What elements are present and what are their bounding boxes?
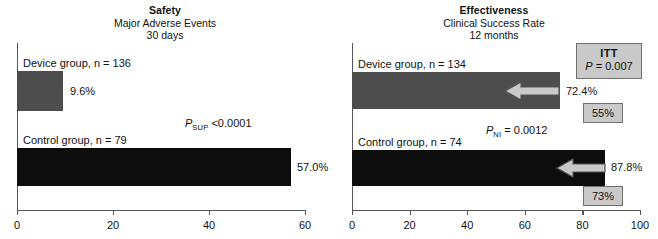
safety-subtitle-2: 30 days (0, 29, 330, 42)
panel-safety: Safety Major Adverse Events 30 days 0 20… (0, 0, 330, 239)
effectiveness-subtitle-2: 12 months (330, 29, 658, 42)
effectiveness-title: Effectiveness (330, 4, 658, 17)
safety-tick-0 (17, 210, 18, 215)
effectiveness-tick-0 (352, 210, 353, 215)
effectiveness-x-axis (352, 210, 641, 211)
device-threshold-label: 55% (592, 107, 614, 120)
safety-x-axis (17, 210, 306, 211)
effectiveness-control-value-label: 87.8% (611, 161, 642, 173)
clinical-trial-figure: Safety Major Adverse Events 30 days 0 20… (0, 0, 658, 239)
safety-control-bar (17, 148, 291, 186)
effectiveness-tick-label-20: 20 (390, 219, 430, 231)
safety-control-group-label: Control group, n = 79 (23, 134, 127, 146)
safety-tick-label-20: 20 (93, 219, 133, 231)
effectiveness-tick-label-100: 100 (620, 219, 658, 231)
safety-tick-label-60: 60 (285, 219, 325, 231)
effectiveness-tick-40 (467, 210, 468, 215)
arrow-device-threshold-icon (504, 80, 560, 102)
safety-title-block: Safety Major Adverse Events 30 days (0, 4, 330, 42)
effectiveness-tick-80 (582, 210, 583, 215)
effectiveness-device-value-label: 72.4% (566, 85, 597, 97)
safety-tick-40 (209, 210, 210, 215)
effectiveness-tick-label-40: 40 (447, 219, 487, 231)
effectiveness-tick-20 (410, 210, 411, 215)
effectiveness-p-rest: = 0.0012 (501, 124, 547, 136)
control-threshold-box: 73% (583, 186, 623, 206)
safety-p-value: PSUP <0.0001 (185, 117, 252, 132)
safety-device-bar (17, 71, 63, 111)
device-threshold-box: 55% (583, 103, 623, 123)
effectiveness-subtitle: Clinical Success Rate (330, 17, 658, 30)
effectiveness-tick-label-60: 60 (505, 219, 545, 231)
effectiveness-p-value: PNI = 0.0012 (486, 124, 547, 139)
itt-p-value: P = 0.007 (577, 60, 641, 73)
arrow-control-threshold-icon (556, 157, 606, 179)
safety-tick-20 (113, 210, 114, 215)
effectiveness-tick-label-80: 80 (562, 219, 602, 231)
safety-title: Safety (0, 4, 330, 17)
itt-p-rest: = 0.007 (593, 60, 633, 72)
safety-p-rest: <0.0001 (208, 117, 251, 129)
safety-device-group-label: Device group, n = 136 (23, 57, 131, 69)
safety-p-subscript: SUP (192, 123, 208, 132)
itt-callout-box: ITT P = 0.007 (576, 43, 642, 79)
effectiveness-control-group-label: Control group, n = 74 (358, 136, 462, 148)
panel-effectiveness: Effectiveness Clinical Success Rate 12 m… (330, 0, 658, 239)
safety-control-value-label: 57.0% (297, 161, 328, 173)
itt-label: ITT (577, 47, 641, 60)
effectiveness-title-block: Effectiveness Clinical Success Rate 12 m… (330, 4, 658, 42)
effectiveness-device-group-label: Device group, n = 134 (358, 58, 466, 70)
effectiveness-tick-100 (640, 210, 641, 215)
safety-tick-60 (305, 210, 306, 215)
safety-tick-label-40: 40 (189, 219, 229, 231)
effectiveness-tick-label-0: 0 (332, 219, 372, 231)
safety-subtitle: Major Adverse Events (0, 17, 330, 30)
control-threshold-label: 73% (592, 190, 614, 203)
safety-device-value-label: 9.6% (70, 85, 95, 97)
safety-tick-label-0: 0 (0, 219, 37, 231)
effectiveness-tick-60 (525, 210, 526, 215)
itt-p-symbol: P (585, 60, 592, 72)
